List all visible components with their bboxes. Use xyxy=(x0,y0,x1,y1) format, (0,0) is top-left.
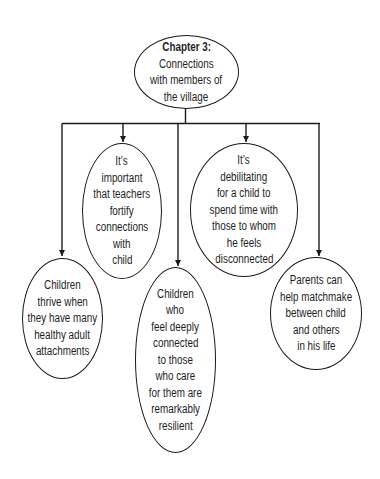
node-text-line: remarkably xyxy=(151,401,200,418)
node-text-line: It’s xyxy=(116,153,128,170)
root-text-line: with members of xyxy=(150,72,222,89)
node-text-line: who care xyxy=(156,368,196,385)
node-text-line: important xyxy=(101,170,142,187)
root-text-line: Connections xyxy=(159,56,214,73)
node-text-line: attachments xyxy=(36,343,90,360)
node-parents-matchmake: Parents can help matchmake between child… xyxy=(270,257,362,370)
node-text-line: between child xyxy=(286,305,346,322)
node-text-line: healthy adult xyxy=(35,327,91,344)
node-text-line: for them are xyxy=(149,385,202,402)
root-title: Chapter 3: xyxy=(162,39,211,56)
node-text-line: to those xyxy=(158,352,193,369)
arrowhead-icon xyxy=(243,136,249,142)
arrowhead-icon xyxy=(120,136,126,142)
node-debilitating: It’s debilitating for a child to spend t… xyxy=(190,143,298,277)
node-text-line: they have many xyxy=(28,310,97,327)
node-text-line: Children xyxy=(157,286,194,303)
node-text-line: he feels xyxy=(227,235,261,252)
node-text-line: connected xyxy=(153,335,198,352)
node-text-line: thrive when xyxy=(37,294,87,311)
node-children-resilient: Children who feel deeply connected to th… xyxy=(135,267,216,453)
node-text-line: Parents can xyxy=(290,272,343,289)
arrowhead-icon xyxy=(316,250,322,256)
node-text-line: Children xyxy=(44,277,81,294)
node-text-line: help matchmake xyxy=(280,289,352,306)
arrowhead-icon xyxy=(59,250,65,256)
node-text-line: with xyxy=(113,236,131,253)
root-node-chapter-3: Chapter 3: Connections with members of t… xyxy=(134,35,239,109)
node-text-line: and others xyxy=(293,322,340,339)
concept-map: Chapter 3: Connections with members of t… xyxy=(0,0,380,479)
node-text-line: fortify xyxy=(110,203,134,220)
node-children-thrive: Children thrive when they have many heal… xyxy=(22,258,103,379)
node-text-line: that teachers xyxy=(94,186,151,203)
arrowhead-icon xyxy=(175,260,181,266)
node-text-line: child xyxy=(112,252,132,269)
root-text-line: the village xyxy=(164,89,208,106)
node-text-line: spend time with xyxy=(210,202,278,219)
node-text-line: It’s xyxy=(238,152,250,169)
node-text-line: who xyxy=(166,302,184,319)
node-text-line: debilitating xyxy=(220,169,267,186)
node-text-line: in his life xyxy=(297,338,335,355)
node-text-line: connections xyxy=(96,219,149,236)
node-text-line: feel deeply xyxy=(152,319,200,336)
node-teachers-fortify: It’s important that teachers fortify con… xyxy=(82,143,162,279)
node-text-line: disconnected xyxy=(215,251,273,268)
node-text-line: resilient xyxy=(159,418,193,435)
node-text-line: for a child to xyxy=(217,185,271,202)
node-text-line: those to whom xyxy=(212,218,276,235)
